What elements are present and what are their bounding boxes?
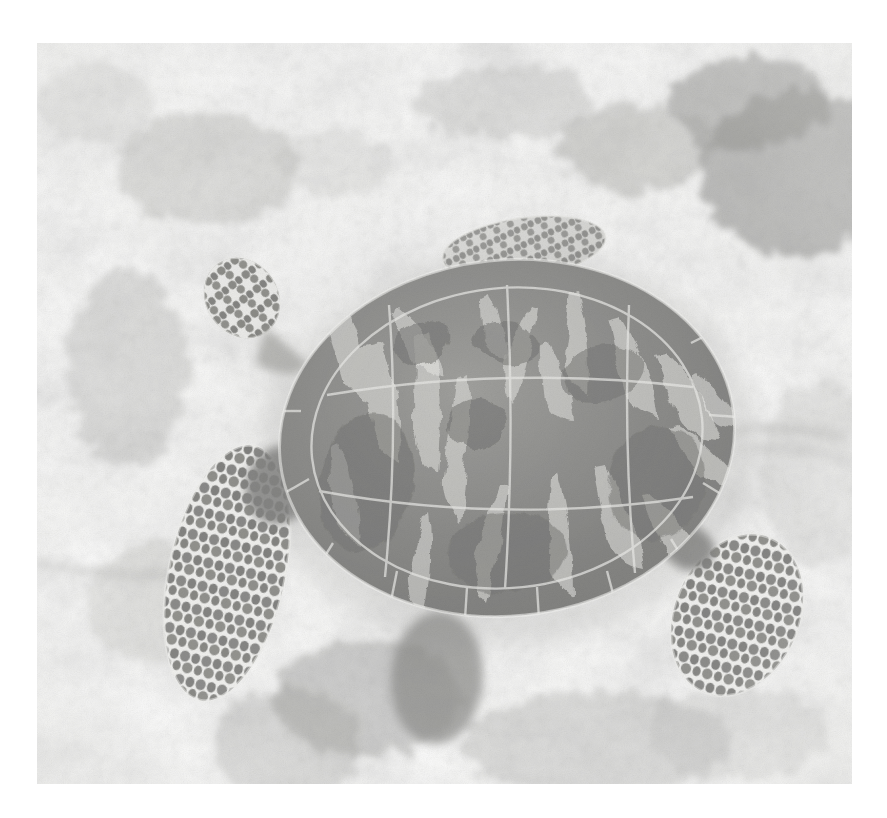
photograph <box>37 43 852 784</box>
photo-grain-fine <box>37 43 852 784</box>
page-root: Green sea turtle over coral reef green s… <box>0 0 887 818</box>
photo-canvas <box>37 43 852 784</box>
